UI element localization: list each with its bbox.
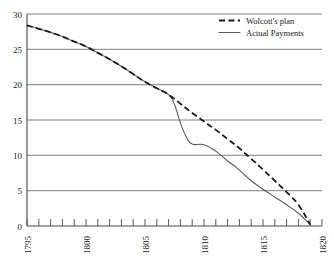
legend-label-actual-payments: Actual Payments bbox=[246, 28, 304, 38]
y-tick-label-15: 15 bbox=[13, 116, 23, 126]
x-tick-marks bbox=[27, 219, 322, 226]
series-line-wolcotts-plan bbox=[27, 25, 310, 224]
x-tick-label-1795: 1795 bbox=[23, 236, 33, 255]
y-tick-label-5: 5 bbox=[18, 186, 23, 196]
legend-label-wolcotts-plan: Wolcott's plan bbox=[246, 16, 295, 26]
y-tick-label-20: 20 bbox=[13, 80, 23, 90]
chart-figure: 30 25 20 15 10 5 0 1795 1800 1805 1810 1… bbox=[0, 0, 334, 272]
y-tick-label-25: 25 bbox=[13, 45, 23, 55]
x-tick-label-1810: 1810 bbox=[200, 236, 210, 255]
legend: Wolcott's plan Actual Payments bbox=[219, 16, 304, 38]
line-chart: 30 25 20 15 10 5 0 1795 1800 1805 1810 1… bbox=[0, 0, 334, 272]
x-tick-labels: 1795 1800 1805 1810 1815 1820 bbox=[23, 236, 328, 255]
x-tick-label-1800: 1800 bbox=[82, 236, 92, 255]
y-tick-label-10: 10 bbox=[13, 151, 23, 161]
y-tick-label-0: 0 bbox=[18, 222, 23, 232]
x-tick-label-1815: 1815 bbox=[259, 236, 269, 255]
x-tick-label-1820: 1820 bbox=[318, 236, 328, 255]
series-line-actual-payments bbox=[27, 25, 310, 224]
y-tick-labels: 30 25 20 15 10 5 0 bbox=[13, 10, 23, 232]
x-tick-label-1805: 1805 bbox=[141, 236, 151, 255]
y-tick-label-30: 30 bbox=[13, 10, 23, 20]
